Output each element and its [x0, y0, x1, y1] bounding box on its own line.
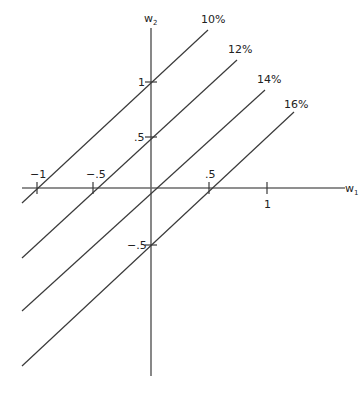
- x-tick-label: −.5: [86, 168, 106, 181]
- line-16-percent: [22, 112, 294, 366]
- line-label-14: 14%: [257, 73, 281, 86]
- y-axis-label: w2: [144, 12, 157, 27]
- line-12-percent: [22, 60, 237, 258]
- isoreturn-diagram: −1 −.5 .5 1 1 .5 −.5 w2 w1 10% 12% 14% 1…: [0, 0, 359, 395]
- line-label-10: 10%: [201, 13, 225, 26]
- y-tick-label: .5: [134, 131, 145, 144]
- line-10-percent: [22, 30, 208, 203]
- x-tick-label: 1: [264, 198, 271, 211]
- line-label-12: 12%: [228, 43, 252, 56]
- y-tick-label: −.5: [127, 239, 147, 252]
- line-14-percent: [22, 90, 265, 311]
- x-tick-label: −1: [30, 168, 46, 181]
- y-tick-label: 1: [138, 76, 145, 89]
- line-label-16: 16%: [284, 98, 308, 111]
- x-axis-label: w1: [345, 182, 358, 197]
- x-tick-label: .5: [205, 168, 216, 181]
